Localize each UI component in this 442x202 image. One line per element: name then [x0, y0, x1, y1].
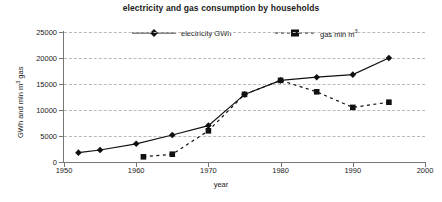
series-gas [141, 78, 392, 160]
data-point-marker [386, 55, 393, 62]
y-axis-title: GWh and mln m3 gas [15, 42, 26, 162]
data-point-marker [141, 154, 147, 160]
chart-container: electricity and gas consumption by house… [0, 0, 442, 202]
data-point-marker [206, 128, 212, 134]
data-point-marker [313, 74, 320, 81]
data-point-marker [97, 147, 104, 154]
data-point-marker [314, 89, 320, 95]
series-electricity [75, 55, 392, 156]
series-line [78, 58, 389, 153]
data-point-marker [350, 71, 357, 78]
data-point-marker [169, 132, 176, 139]
data-point-marker [242, 92, 248, 98]
data-point-marker [133, 141, 140, 148]
data-point-marker [170, 151, 176, 157]
data-point-marker [75, 149, 82, 156]
series-line [143, 80, 389, 156]
chart-series-layer [0, 0, 442, 202]
data-point-marker [386, 99, 392, 105]
x-axis-title: year [0, 180, 442, 189]
data-point-marker [350, 105, 356, 111]
data-point-marker [278, 78, 284, 84]
